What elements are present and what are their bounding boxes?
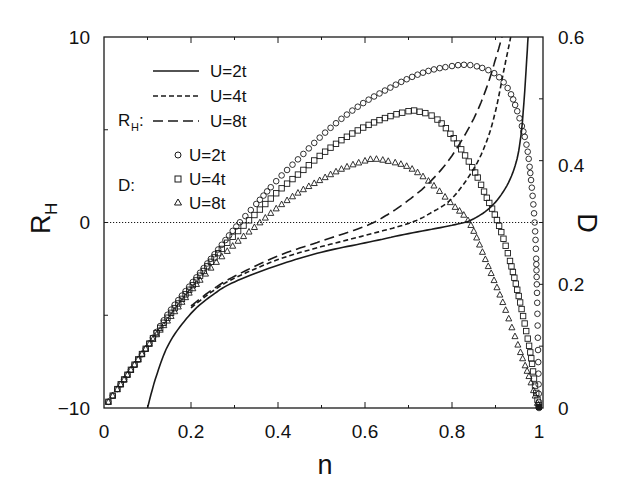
triangle-marker bbox=[485, 263, 491, 269]
triangle-marker bbox=[273, 205, 279, 211]
circle-marker bbox=[455, 62, 461, 68]
square-marker bbox=[524, 328, 529, 333]
square-marker bbox=[478, 182, 483, 187]
circle-marker bbox=[536, 382, 542, 388]
circle-marker bbox=[461, 62, 467, 68]
circle-marker bbox=[530, 193, 536, 199]
triangle-marker bbox=[509, 324, 515, 330]
y-right-tick-label: 0.4 bbox=[558, 155, 585, 176]
circle-marker bbox=[512, 102, 518, 108]
y-right-tick-label: 0.2 bbox=[558, 274, 584, 295]
circle-marker bbox=[514, 108, 520, 114]
square-marker bbox=[526, 343, 531, 348]
square-marker bbox=[400, 110, 405, 115]
circle-marker bbox=[524, 142, 530, 148]
square-marker bbox=[513, 281, 518, 286]
legend-entry-d-u8: U=8t bbox=[189, 194, 226, 213]
circle-marker bbox=[339, 116, 345, 122]
circle-marker bbox=[534, 274, 540, 280]
triangle-marker bbox=[520, 355, 526, 361]
circle-marker bbox=[443, 64, 449, 70]
circle-marker bbox=[534, 300, 540, 306]
square-marker bbox=[496, 223, 501, 228]
legend-entry-d-u2: U=2t bbox=[189, 146, 226, 165]
square-marker bbox=[510, 269, 515, 274]
square-marker bbox=[458, 147, 463, 152]
circle-marker bbox=[371, 94, 377, 100]
circle-marker bbox=[517, 115, 523, 121]
square-marker bbox=[501, 236, 506, 241]
square-marker bbox=[382, 115, 387, 120]
x-tick-label: 0.2 bbox=[178, 421, 204, 442]
circle-marker bbox=[535, 323, 541, 329]
triangle-marker bbox=[517, 349, 523, 355]
legend-entry-rh-u4: U=4t bbox=[210, 87, 247, 106]
circle-marker bbox=[398, 79, 404, 85]
circle-marker bbox=[535, 311, 541, 317]
triangle-marker bbox=[356, 159, 362, 165]
triangle-marker bbox=[392, 159, 398, 165]
square-marker bbox=[528, 350, 533, 355]
d-curve-u=4t bbox=[106, 108, 542, 408]
triangle-marker bbox=[524, 368, 530, 374]
x-tick-label: 0.4 bbox=[265, 421, 292, 442]
circle-marker bbox=[290, 162, 296, 168]
circle-marker bbox=[382, 88, 388, 94]
legend-entry-rh-u8: U=8t bbox=[210, 112, 247, 131]
square-marker bbox=[295, 172, 300, 177]
square-marker bbox=[333, 141, 338, 146]
square-marker bbox=[301, 167, 306, 172]
circle-marker bbox=[426, 68, 432, 74]
triangle-marker bbox=[350, 161, 356, 167]
circle-marker bbox=[535, 335, 541, 341]
circle-marker bbox=[415, 72, 421, 78]
triangle-marker bbox=[494, 284, 500, 290]
circle-marker bbox=[531, 211, 537, 217]
circle-marker bbox=[284, 167, 290, 173]
square-marker bbox=[516, 293, 521, 298]
circle-marker bbox=[534, 290, 540, 296]
triangle-marker bbox=[344, 163, 350, 169]
square-marker bbox=[417, 109, 422, 114]
square-marker bbox=[484, 195, 489, 200]
triangle-marker bbox=[380, 157, 386, 163]
square-marker bbox=[388, 113, 393, 118]
circle-marker bbox=[449, 63, 455, 69]
circle-marker bbox=[479, 65, 485, 71]
triangle-marker bbox=[482, 256, 488, 262]
triangle-marker bbox=[404, 163, 410, 169]
square-marker bbox=[492, 212, 497, 217]
x-axis-label: n bbox=[317, 450, 332, 480]
square-marker bbox=[517, 300, 522, 305]
square-marker bbox=[339, 137, 344, 142]
square-marker bbox=[328, 145, 333, 150]
square-marker bbox=[462, 153, 467, 158]
square-marker bbox=[306, 162, 311, 167]
plot-area bbox=[105, 37, 541, 411]
triangle-marker bbox=[442, 194, 448, 200]
x-tick-label: 1 bbox=[534, 421, 545, 442]
triangle-marker bbox=[213, 259, 219, 265]
triangle-marker bbox=[512, 333, 518, 339]
circle-marker bbox=[301, 151, 307, 157]
triangle-marker bbox=[477, 241, 483, 247]
square-marker bbox=[505, 250, 510, 255]
circle-marker bbox=[501, 79, 507, 85]
square-marker bbox=[429, 113, 434, 118]
circle-marker bbox=[273, 178, 279, 184]
circle-marker bbox=[534, 261, 540, 267]
square-marker bbox=[360, 125, 365, 130]
legend-entry-rh-u2: U=2t bbox=[210, 62, 247, 81]
triangle-marker bbox=[415, 169, 421, 175]
square-marker bbox=[312, 158, 317, 163]
triangle-marker bbox=[522, 362, 528, 368]
triangle-marker bbox=[385, 158, 391, 164]
triangle-marker bbox=[503, 307, 509, 313]
triangle-marker bbox=[420, 173, 426, 179]
y-right-tick-label: 0.6 bbox=[558, 27, 584, 48]
x-tick-label: 0.8 bbox=[439, 421, 465, 442]
circle-marker bbox=[531, 202, 537, 208]
circle-marker bbox=[526, 156, 532, 162]
triangle-marker bbox=[474, 234, 480, 240]
square-marker bbox=[503, 243, 508, 248]
